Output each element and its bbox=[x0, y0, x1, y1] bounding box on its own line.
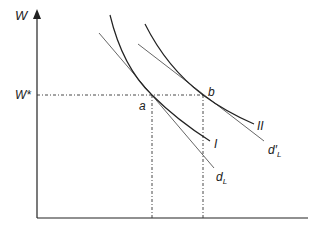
indifference-curve-II bbox=[145, 24, 254, 124]
demand-dL-label: dL bbox=[216, 170, 227, 186]
curve-II-label: II bbox=[257, 119, 264, 133]
demand-line-dL bbox=[99, 33, 214, 168]
demand-dL-prime-label: d′L bbox=[268, 143, 281, 159]
point-b-label: b bbox=[208, 85, 215, 99]
point-a-label: a bbox=[139, 99, 146, 113]
y-axis-label: W bbox=[15, 8, 29, 23]
demand-line-dL-prime bbox=[138, 44, 264, 141]
w-star-label: W* bbox=[15, 88, 31, 102]
diagram-canvas: W W* a b I II dL d′L bbox=[0, 0, 322, 230]
curve-I-label: I bbox=[214, 137, 218, 151]
y-axis-arrow-icon bbox=[33, 9, 41, 19]
indifference-curve-I bbox=[110, 15, 210, 141]
